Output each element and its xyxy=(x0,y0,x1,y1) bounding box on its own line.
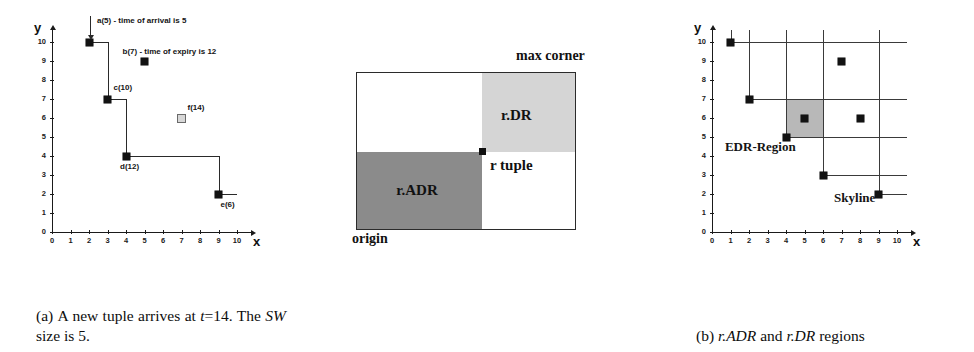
x-tick xyxy=(163,230,164,234)
x-tick xyxy=(145,230,146,234)
x-tick xyxy=(219,230,220,234)
y-tick xyxy=(50,156,54,157)
annotation-arrival: a(5) - time of arrival is 5 xyxy=(97,16,186,25)
y-tick xyxy=(50,175,54,176)
x-tick xyxy=(89,230,90,234)
y-tick-label: 5 xyxy=(30,133,46,141)
point-label-c: c(10) xyxy=(114,83,133,92)
skyline-vline xyxy=(823,30,824,175)
x-tick-label: 9 xyxy=(869,237,889,245)
x-tick-label: 2 xyxy=(739,237,759,245)
skyline-hline xyxy=(786,137,907,138)
y-tick-label: 8 xyxy=(30,76,46,84)
x-tick xyxy=(182,230,183,234)
x-tick-label: 1 xyxy=(61,237,81,245)
skyline-vline xyxy=(879,30,880,194)
x-tick-label: 3 xyxy=(758,237,778,245)
skyline-segment-v xyxy=(126,99,127,156)
skyline-point xyxy=(746,96,753,103)
x-tick xyxy=(805,230,806,234)
x-tick-label: 10 xyxy=(227,237,247,245)
data-point-d xyxy=(123,153,130,160)
caption-a: (a) A new tuple arrives at t=14. The SW … xyxy=(36,306,286,346)
skyline-segment-h xyxy=(126,156,219,157)
x-tick xyxy=(749,230,750,234)
y-tick xyxy=(50,137,54,138)
x-tick xyxy=(71,230,72,234)
x-axis-label: x xyxy=(253,234,260,249)
x-tick-label: 1 xyxy=(721,237,741,245)
x-tick xyxy=(897,230,898,234)
skyline-vline xyxy=(749,30,750,99)
r-adr-label: r.ADR xyxy=(396,182,438,199)
y-axis-label: y xyxy=(694,20,701,35)
y-tick-label: 6 xyxy=(30,114,46,122)
plot-b-diagram: max corner r.DR r.ADR r tuple origin xyxy=(330,0,660,262)
x-tick xyxy=(860,230,861,234)
x-tick-label: 4 xyxy=(776,237,796,245)
y-tick-label: 4 xyxy=(690,152,706,160)
y-tick xyxy=(50,80,54,81)
skyline-segment-v xyxy=(219,156,220,194)
y-axis-arrow xyxy=(710,25,716,30)
y-tick-label: 2 xyxy=(690,190,706,198)
origin-label: origin xyxy=(352,231,388,247)
y-tick xyxy=(50,213,54,214)
point-label-e: e(6) xyxy=(221,200,235,209)
x-tick-label: 5 xyxy=(795,237,815,245)
annotation-expiry: b(7) - time of expiry is 12 xyxy=(123,47,217,56)
y-tick xyxy=(710,61,714,62)
x-tick xyxy=(768,230,769,234)
x-tick xyxy=(823,230,824,234)
skyline-point xyxy=(727,39,734,46)
figure-row: 012345678910012345678910xyc(10)d(12)e(6)… xyxy=(0,0,974,352)
skyline-hline xyxy=(879,194,908,195)
skyline-hline xyxy=(749,99,907,100)
y-tick-label: 6 xyxy=(690,114,706,122)
r-tuple-point xyxy=(479,148,486,155)
y-tick-label: 3 xyxy=(690,171,706,179)
y-tick-label: 7 xyxy=(690,95,706,103)
x-tick-label: 2 xyxy=(79,237,99,245)
dominated-point xyxy=(838,58,845,65)
x-axis-line xyxy=(52,232,251,233)
y-tick xyxy=(710,175,714,176)
y-axis-label: y xyxy=(34,20,41,35)
y-tick xyxy=(50,118,54,119)
data-point-c xyxy=(104,96,111,103)
y-tick-label: 9 xyxy=(30,57,46,65)
y-tick-label: 4 xyxy=(30,152,46,160)
x-tick xyxy=(126,230,127,234)
region-box: r.DR r.ADR r tuple xyxy=(356,72,576,230)
y-tick-label: 8 xyxy=(690,76,706,84)
y-tick xyxy=(710,42,714,43)
panel-c: 012345678910012345678910xyEDR-RegionSkyl… xyxy=(660,0,974,352)
x-tick-label: 10 xyxy=(887,237,907,245)
y-axis-arrow xyxy=(50,25,56,30)
y-tick xyxy=(710,99,714,100)
y-tick xyxy=(710,232,714,233)
y-tick xyxy=(710,194,714,195)
arrival-drop-arrow xyxy=(90,16,91,36)
point-label-f: f(14) xyxy=(188,103,205,112)
y-tick-label: 5 xyxy=(690,133,706,141)
x-tick-label: 7 xyxy=(172,237,192,245)
panel-a: 012345678910012345678910xyc(10)d(12)e(6)… xyxy=(0,0,330,352)
max-corner-label: max corner xyxy=(516,48,585,64)
dominated-point xyxy=(857,115,864,122)
x-tick-label: 4 xyxy=(116,237,136,245)
x-tick xyxy=(879,230,880,234)
skyline-point xyxy=(820,172,827,179)
x-tick-label: 0 xyxy=(42,237,62,245)
x-tick-label: 0 xyxy=(702,237,722,245)
x-tick xyxy=(108,230,109,234)
x-tick xyxy=(786,230,787,234)
y-tick-label: 7 xyxy=(30,95,46,103)
y-tick-label: 10 xyxy=(690,38,706,46)
y-tick xyxy=(710,156,714,157)
data-point-e xyxy=(215,191,222,198)
x-tick-label: 5 xyxy=(135,237,155,245)
x-tick-label: 8 xyxy=(850,237,870,245)
skyline-hline xyxy=(731,42,908,43)
x-tick-label: 9 xyxy=(209,237,229,245)
